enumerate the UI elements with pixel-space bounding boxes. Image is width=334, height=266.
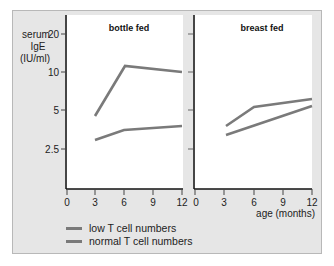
- y-ticks-right: [188, 34, 193, 149]
- y-label-line2: IgE: [30, 41, 45, 52]
- panel-bottle-fed: [67, 15, 183, 189]
- y-label-line3: (IU/ml): [20, 53, 50, 64]
- legend-swatch-low: [66, 227, 82, 230]
- x-tick-left-0: 0: [64, 197, 70, 208]
- x-tick-right-3: 3: [221, 197, 227, 208]
- x-ticks-left: [67, 189, 182, 195]
- legend-swatch-normal: [66, 240, 82, 243]
- legend-item-low-t-cell: low T cell numbers: [66, 222, 176, 234]
- y-tick-5: 5: [53, 105, 59, 116]
- x-ticks-right: [195, 189, 312, 195]
- y-label-line1: serum: [22, 29, 50, 40]
- legend-item-normal-t-cell: normal T cell numbers: [66, 235, 193, 247]
- legend-label-normal: normal T cell numbers: [89, 235, 193, 247]
- x-tick-right-9: 9: [280, 197, 286, 208]
- x-tick-right-0: 0: [193, 197, 199, 208]
- x-tick-right-12: 12: [306, 197, 318, 208]
- y-tick-10: 10: [48, 67, 60, 78]
- y-tick-2-5: 2.5: [45, 144, 59, 155]
- x-tick-left-9: 9: [150, 197, 156, 208]
- panel-title-bottle-fed: bottle fed: [109, 23, 150, 33]
- x-axis-label: age (months): [256, 208, 315, 219]
- x-tick-right-6: 6: [251, 197, 257, 208]
- x-tick-left-6: 6: [121, 197, 127, 208]
- panel-title-breast-fed: breast fed: [240, 23, 283, 33]
- x-tick-left-12: 12: [176, 197, 188, 208]
- x-tick-left-3: 3: [92, 197, 98, 208]
- legend-label-low: low T cell numbers: [89, 222, 176, 234]
